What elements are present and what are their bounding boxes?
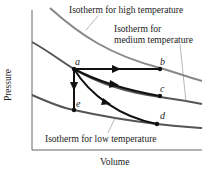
y-axis-label: Pressure: [3, 69, 13, 101]
point-label-e: e: [76, 98, 80, 109]
point-label-b: b: [160, 56, 165, 67]
point-a: [72, 67, 76, 71]
label-isotherm-low: Isotherm for low temperature: [45, 134, 157, 144]
pv-diagram-canvas: [0, 0, 216, 173]
process-a-d: [74, 69, 157, 124]
point-label-a: a: [75, 56, 80, 67]
process-a-c: [74, 69, 160, 96]
arrow-a-e: [70, 82, 78, 91]
label-isotherm-medium-1: Isotherm for: [114, 24, 161, 34]
arrow-a-b: [112, 65, 121, 73]
leader-high: [86, 16, 98, 30]
point-c: [158, 94, 162, 98]
point-label-c: c: [160, 83, 164, 94]
point-b: [158, 67, 162, 71]
label-isotherm-medium-2: medium temperature: [114, 35, 193, 45]
label-isotherm-high: Isotherm for high temperature: [69, 5, 183, 15]
x-axis-label: Volume: [100, 157, 129, 167]
leader-low: [108, 118, 115, 133]
leader-medium: [180, 44, 186, 102]
point-label-d: d: [160, 110, 165, 121]
point-d: [155, 122, 159, 126]
